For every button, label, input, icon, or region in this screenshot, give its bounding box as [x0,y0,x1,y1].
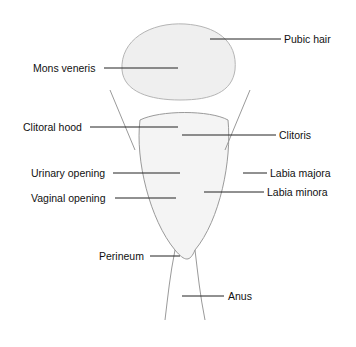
label-labia-majora: Labia majora [270,167,331,179]
label-clitoral-hood: Clitoral hood [23,121,82,133]
label-anus: Anus [228,290,252,302]
label-perineum: Perineum [99,250,144,262]
label-labia-minora: Labia minora [267,186,328,198]
label-urinary-opening: Urinary opening [31,167,105,179]
label-clitoris: Clitoris [279,129,311,141]
anatomy-diagram: Pubic hair Mons veneris Clitoral hood Cl… [0,0,356,347]
label-pubic-hair: Pubic hair [284,33,331,45]
label-mons-veneris: Mons veneris [33,62,95,74]
label-vaginal-opening: Vaginal opening [31,192,106,204]
